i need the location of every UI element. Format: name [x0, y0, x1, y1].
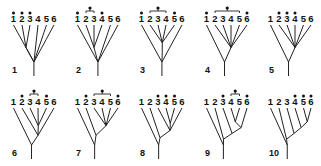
taxon-label-1: 1: [75, 96, 81, 107]
taxon-label-5: 5: [108, 13, 114, 24]
taxon-label-3: 3: [220, 96, 225, 107]
taxon-label-3: 3: [91, 13, 96, 24]
character-dot: [117, 95, 120, 98]
tree-branch: [94, 48, 98, 63]
tree-branch: [231, 25, 247, 48]
taxon-label-3: 3: [284, 13, 289, 24]
cladogram-figure: 1234561123456212345631234564123456512345…: [0, 0, 321, 166]
cladogram-tree: 1234563: [128, 0, 192, 83]
cladogram-tree: 1234566: [0, 83, 64, 166]
character-dot: [222, 95, 225, 98]
character-dot: [157, 95, 160, 98]
taxon-label-5: 5: [237, 13, 243, 24]
tree-branch: [96, 126, 106, 136]
cladogram-tree: 1234564: [193, 0, 257, 83]
taxon-label-1: 1: [204, 96, 210, 107]
taxon-label-6: 6: [51, 96, 56, 107]
taxon-label-4: 4: [228, 13, 234, 24]
taxon-label-3: 3: [27, 96, 32, 107]
taxon-label-2: 2: [212, 13, 217, 24]
taxon-label-6: 6: [179, 13, 184, 24]
taxon-label-6: 6: [51, 13, 56, 24]
tree-branch: [26, 48, 34, 63]
taxon-label-5: 5: [301, 96, 307, 107]
taxon-label-1: 1: [268, 96, 274, 107]
cladogram-panel-1: 1234561: [0, 0, 64, 83]
panel-number: 10: [269, 148, 279, 158]
cladogram-tree: 1234567: [64, 83, 128, 166]
taxon-label-3: 3: [284, 96, 289, 107]
character-dot: [205, 12, 208, 15]
character-dot: [294, 95, 297, 98]
taxon-label-6: 6: [308, 13, 313, 24]
taxon-label-4: 4: [99, 96, 105, 107]
cladogram-tree: 1234561: [0, 0, 64, 83]
tree-branch: [295, 25, 311, 48]
character-dot: [76, 12, 79, 15]
tree-branch: [159, 138, 160, 145]
taxon-label-2: 2: [19, 96, 24, 107]
taxon-label-1: 1: [75, 13, 81, 24]
tree-branch: [304, 108, 308, 122]
taxon-label-5: 5: [172, 96, 178, 107]
tree-branch: [225, 48, 231, 63]
taxon-label-6: 6: [244, 13, 249, 24]
character-dot: [246, 12, 249, 15]
taxon-label-6: 6: [115, 96, 120, 107]
tree-branch: [223, 25, 231, 48]
tree-branch: [150, 108, 160, 138]
taxon-label-1: 1: [204, 13, 210, 24]
taxon-label-2: 2: [83, 13, 88, 24]
cladogram-panel-2: 1234562: [64, 0, 128, 83]
tree-branch: [235, 108, 239, 122]
cladogram-panel-8: 1234568: [128, 83, 192, 166]
tree-branch: [32, 135, 38, 145]
taxon-label-4: 4: [99, 13, 105, 24]
cladogram-panel-5: 1234565: [257, 0, 321, 83]
tree-branch: [86, 108, 96, 135]
tree-branch: [160, 131, 170, 138]
character-dot: [173, 12, 176, 15]
cladogram-tree: 1234562: [64, 0, 128, 83]
character-dot: [246, 95, 249, 98]
taxon-label-5: 5: [172, 13, 178, 24]
tree-branch: [86, 25, 94, 48]
character-dot: [21, 12, 24, 15]
taxon-label-5: 5: [237, 96, 243, 107]
tree-branch: [94, 25, 102, 48]
taxon-label-2: 2: [147, 13, 152, 24]
cladogram-panel-10: 12345610: [257, 83, 321, 166]
taxon-label-6: 6: [244, 96, 249, 107]
character-dot: [302, 95, 305, 98]
tree-branch: [295, 108, 301, 128]
taxon-label-1: 1: [11, 96, 17, 107]
taxon-label-3: 3: [27, 13, 32, 24]
character-dot: [12, 12, 15, 15]
panel-number: 3: [140, 65, 145, 75]
cladogram-tree: 1234565: [257, 0, 321, 83]
tree-branch: [231, 25, 240, 48]
group-character-dot: [101, 89, 104, 92]
panel-number: 2: [76, 65, 81, 75]
taxon-label-1: 1: [139, 13, 145, 24]
taxon-label-6: 6: [115, 13, 120, 24]
cladogram-tree: 1234569: [193, 83, 257, 166]
taxon-label-5: 5: [301, 13, 307, 24]
character-dot: [310, 95, 313, 98]
taxon-label-1: 1: [139, 96, 145, 107]
tree-branch: [170, 108, 174, 123]
group-character-dot: [156, 6, 159, 9]
panel-number: 9: [205, 148, 210, 158]
tree-branch: [294, 128, 301, 134]
tree-branch: [279, 25, 295, 48]
tree-branch: [166, 108, 170, 123]
tree-branch: [14, 108, 32, 145]
taxon-label-2: 2: [19, 13, 24, 24]
tree-branch: [271, 108, 288, 145]
tree-branch: [215, 25, 231, 48]
tree-branch: [215, 108, 224, 139]
tree-branch: [95, 135, 96, 145]
cladogram-tree: 12345610: [257, 83, 321, 166]
taxon-label-3: 3: [220, 13, 225, 24]
tree-branch: [307, 108, 311, 122]
